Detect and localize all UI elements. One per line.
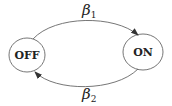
transition-on-to-off-arrow [35, 69, 138, 87]
state-on-label: ON [133, 46, 153, 59]
transition-off-to-on-label: β1 [81, 1, 96, 20]
diagram-svg: OFF ON β1 β2 [0, 0, 172, 106]
state-off: OFF [9, 38, 45, 72]
transition-off-to-on-arrow [33, 20, 138, 39]
state-off-label: OFF [14, 49, 39, 62]
state-diagram: OFF ON β1 β2 [0, 0, 172, 106]
transition-on-to-off-label: β2 [81, 85, 96, 104]
state-on: ON [123, 34, 163, 70]
